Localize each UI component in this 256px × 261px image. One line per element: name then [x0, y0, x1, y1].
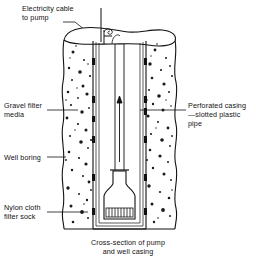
label-perforated-casing: Perforated casing —slotted plastic pipe	[188, 101, 246, 129]
label-nylon-cloth-filter-sock: Nylon cloth filter sock	[4, 203, 41, 221]
well-cross-section-figure: Electricity cable to pump Gravel filter …	[0, 0, 256, 261]
figure-caption: Cross-section of pump and well casing	[0, 238, 256, 257]
gravel-pack-left	[65, 45, 92, 223]
gravel-pack-right	[146, 43, 173, 223]
boring-wall-right	[175, 40, 177, 229]
label-well-boring: Well boring	[4, 153, 41, 162]
label-gravel-filter-media: Gravel filter media	[4, 101, 42, 119]
boring-wall-left	[62, 40, 64, 229]
flow-arrow	[117, 96, 122, 162]
well-diagram-svg	[0, 0, 256, 261]
label-electricity-cable: Electricity cable to pump	[22, 4, 74, 22]
wellhead-top-ellipse	[64, 28, 175, 46]
